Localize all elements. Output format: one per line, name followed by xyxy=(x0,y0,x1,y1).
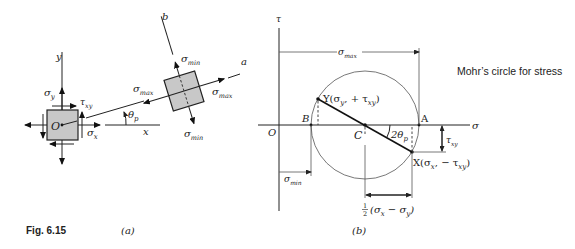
sigma-max-right-label: σmax xyxy=(212,86,233,100)
figure-caption: Fig. 6.15 xyxy=(26,225,66,236)
sigma-y-label: σy xyxy=(44,87,56,101)
svg-text:(σx − σy): (σx − σy) xyxy=(370,204,414,218)
point-b-label: B xyxy=(301,113,309,124)
sigma-min-top-label: σmin xyxy=(181,53,200,67)
point-c-label: C xyxy=(354,129,363,142)
point-x-label: X(σx, − τxy) xyxy=(413,157,470,171)
svg-text:2: 2 xyxy=(363,210,367,218)
point-c xyxy=(363,123,367,127)
sigma-min-dim-label: σmin xyxy=(284,174,302,186)
sigma-x-label: σx xyxy=(87,127,98,141)
sigma-max-left-label: σmax xyxy=(133,83,154,97)
origin-label-b: O xyxy=(268,127,276,138)
two-theta-arc xyxy=(387,125,390,137)
panel-a-label: (a) xyxy=(121,225,135,236)
sigma-axis-label: σ xyxy=(472,120,480,131)
figure-canvas: y O σy τxy σx x θp xyxy=(0,0,575,249)
svg-text:1: 1 xyxy=(363,202,367,210)
y-axis-label: y xyxy=(55,51,62,62)
half-diff-label: 1 2 (σx − σy) xyxy=(362,202,414,218)
tau-axis-label: τ xyxy=(276,14,282,24)
mohrs-circle-title: Mohr’s circle for stress xyxy=(457,65,562,77)
b-axis-label: b xyxy=(162,11,168,22)
point-y-label: Y(σy, + τxy) xyxy=(322,93,380,107)
a-axis-label: a xyxy=(241,56,247,67)
a-axis-end xyxy=(228,74,240,78)
panel-b: τ σ O Y(σy, + τxy) X(σx, − τxy) B A C 2θ… xyxy=(258,14,480,236)
point-y xyxy=(316,97,320,101)
sigma-max-dim-label: σmax xyxy=(338,47,357,59)
tau-xy-label: τxy xyxy=(80,97,93,110)
point-a-label: A xyxy=(420,113,429,124)
x-axis-label: x xyxy=(143,126,149,137)
tau-xy-dim-label: τxy xyxy=(446,135,458,148)
sigma-min-bottom-label: σmin xyxy=(184,128,203,142)
panel-b-label: (b) xyxy=(352,225,366,236)
origin-label: O xyxy=(51,120,60,133)
panel-a: y O σy τxy σx x θp xyxy=(25,4,247,236)
theta-p-arc xyxy=(124,112,126,125)
theta-p-label: θp xyxy=(128,109,139,123)
